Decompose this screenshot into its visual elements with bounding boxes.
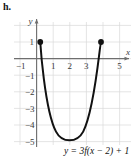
y-tick-label: −2 xyxy=(25,87,35,97)
y-axis-label: y xyxy=(28,16,33,26)
y-tick-label: −3 xyxy=(25,104,35,114)
x-tick-label: 5 xyxy=(117,61,122,71)
y-tick-label: −4 xyxy=(25,120,35,130)
x-tick-label: 3 xyxy=(84,61,89,71)
y-tick-label: 1 xyxy=(30,37,35,47)
graph-plot-area: y x −1 1 2 3 5 1 −1 −2 −3 −4 −5 xyxy=(0,14,133,159)
x-tick-label: 2 xyxy=(67,61,72,71)
x-axis-label: x xyxy=(125,47,130,57)
y-tick-label: −5 xyxy=(25,137,35,147)
x-tick-label: −1 xyxy=(16,61,26,71)
equation-label: y = 3f(x − 2) + 1 xyxy=(63,146,129,157)
part-label: h. xyxy=(3,1,11,13)
y-tick-label: −1 xyxy=(25,71,35,81)
coordinate-graph: y x −1 1 2 3 5 1 −1 −2 −3 −4 −5 xyxy=(0,14,133,159)
x-tick-label: 1 xyxy=(51,61,56,71)
figure-container: h. xyxy=(0,0,133,159)
endpoint-dot-left xyxy=(37,39,43,45)
endpoint-dot-right xyxy=(98,39,104,45)
